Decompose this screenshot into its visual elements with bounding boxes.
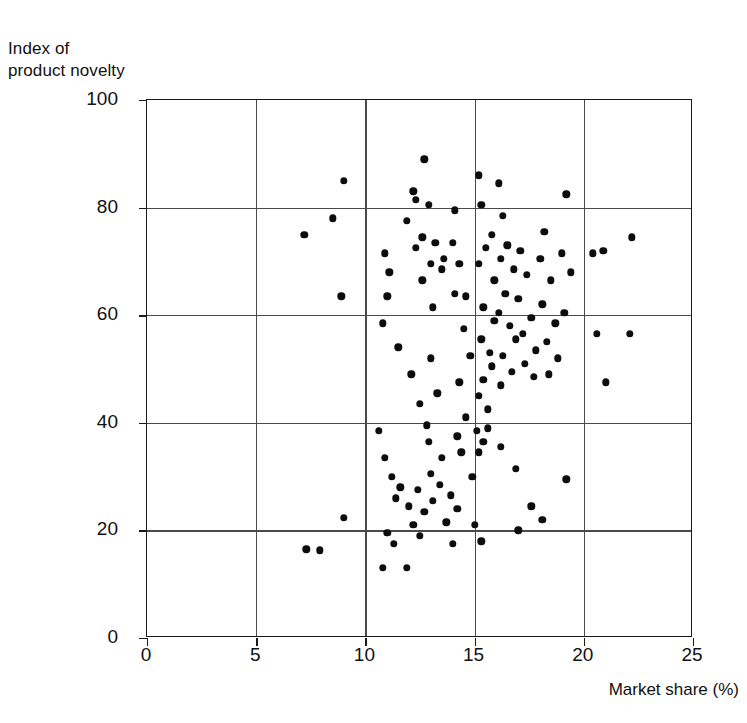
- data-point: [384, 293, 391, 300]
- data-point: [429, 303, 436, 310]
- data-point: [418, 277, 425, 284]
- scatter-chart: Index of product novelty Market share (%…: [0, 0, 747, 723]
- data-point: [512, 465, 519, 472]
- gridline-horizontal: [147, 315, 691, 316]
- data-point: [440, 255, 447, 262]
- data-point: [539, 516, 546, 523]
- data-point: [449, 540, 456, 547]
- data-point: [436, 481, 443, 488]
- data-point: [303, 546, 310, 553]
- data-point: [477, 336, 484, 343]
- gridline-horizontal: [147, 208, 691, 209]
- data-point: [432, 239, 439, 246]
- data-point: [301, 231, 308, 238]
- data-point: [381, 454, 388, 461]
- data-point: [488, 363, 495, 370]
- gridline-vertical: [475, 100, 476, 636]
- data-point: [425, 438, 432, 445]
- y-axis-tick-label: 100: [0, 88, 118, 110]
- data-point: [519, 330, 526, 337]
- data-point: [467, 352, 474, 359]
- data-point: [541, 228, 548, 235]
- data-point: [388, 473, 395, 480]
- data-point: [405, 502, 412, 509]
- data-point: [403, 564, 410, 571]
- data-point: [386, 268, 393, 275]
- data-point: [416, 532, 423, 539]
- data-point: [504, 242, 511, 249]
- data-point: [453, 433, 460, 440]
- y-axis-title-line-2: product novelty: [8, 60, 208, 82]
- data-point: [626, 330, 633, 337]
- data-point: [429, 497, 436, 504]
- y-axis-tick: [139, 423, 147, 424]
- data-point: [558, 250, 565, 257]
- y-axis-tick-label: 40: [0, 411, 118, 433]
- data-point: [410, 188, 417, 195]
- data-point: [381, 250, 388, 257]
- data-point: [563, 476, 570, 483]
- data-point: [517, 247, 524, 254]
- x-axis-tick-label: 5: [250, 644, 261, 666]
- data-point: [486, 349, 493, 356]
- data-point: [379, 564, 386, 571]
- data-point: [379, 320, 386, 327]
- data-point: [543, 338, 550, 345]
- data-point: [480, 303, 487, 310]
- data-point: [423, 422, 430, 429]
- data-point: [480, 376, 487, 383]
- data-point: [532, 346, 539, 353]
- data-point: [453, 505, 460, 512]
- data-point: [451, 290, 458, 297]
- data-point: [477, 537, 484, 544]
- data-point: [499, 352, 506, 359]
- data-point: [414, 486, 421, 493]
- data-point: [458, 449, 465, 456]
- x-axis-title: Market share (%): [0, 680, 739, 700]
- data-point: [523, 271, 530, 278]
- data-point: [515, 527, 522, 534]
- data-point: [447, 492, 454, 499]
- data-point: [462, 414, 469, 421]
- data-point: [512, 336, 519, 343]
- data-point: [508, 368, 515, 375]
- data-point: [449, 239, 456, 246]
- data-point: [451, 207, 458, 214]
- data-point: [473, 427, 480, 434]
- data-point: [397, 484, 404, 491]
- data-point: [329, 215, 336, 222]
- y-axis-tick-label: 0: [0, 626, 118, 648]
- plot-area: [146, 99, 692, 637]
- data-point: [530, 373, 537, 380]
- data-point: [475, 260, 482, 267]
- data-point: [408, 371, 415, 378]
- data-point: [510, 266, 517, 273]
- data-point: [600, 247, 607, 254]
- y-axis-tick: [139, 208, 147, 209]
- y-axis-title: Index of product novelty: [8, 38, 208, 82]
- data-point: [421, 508, 428, 515]
- data-point: [539, 301, 546, 308]
- data-point: [552, 320, 559, 327]
- data-point: [390, 540, 397, 547]
- data-point: [338, 293, 345, 300]
- data-point: [403, 217, 410, 224]
- y-axis-tick: [139, 315, 147, 316]
- data-point: [497, 443, 504, 450]
- y-axis-tick: [139, 530, 147, 531]
- data-point: [628, 233, 635, 240]
- data-point: [456, 379, 463, 386]
- data-point: [515, 295, 522, 302]
- y-axis-tick: [139, 638, 147, 639]
- gridline-vertical: [584, 100, 585, 636]
- data-point: [438, 266, 445, 273]
- data-point: [491, 317, 498, 324]
- data-point: [495, 180, 502, 187]
- data-point: [416, 400, 423, 407]
- data-point: [528, 314, 535, 321]
- data-point: [528, 502, 535, 509]
- data-point: [475, 449, 482, 456]
- y-axis-tick-label: 80: [0, 196, 118, 218]
- data-point: [475, 392, 482, 399]
- data-point: [392, 494, 399, 501]
